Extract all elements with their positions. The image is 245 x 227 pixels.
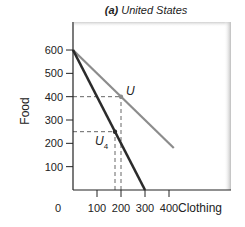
frame-top-shade: [74, 22, 230, 27]
chart: (a) United States UU4 100200300400500600…: [0, 0, 245, 227]
y-tick-label: 200: [45, 137, 63, 149]
plot-area: UU4: [73, 50, 174, 190]
point-label: U4: [95, 134, 109, 151]
x-tick-label: 200: [112, 202, 130, 214]
y-ticks: 100200300400500600: [45, 44, 73, 173]
x-tick-label: 400: [160, 202, 178, 214]
x-tick-label: 300: [136, 202, 154, 214]
frame-right-shade: [224, 22, 231, 190]
point-marker: [113, 129, 117, 133]
y-tick-label: 500: [45, 67, 63, 79]
x-axis-label: Clothing: [178, 201, 222, 215]
point-marker: [119, 94, 123, 98]
y-axis-label: Food: [18, 97, 32, 124]
y-tick-label: 300: [45, 114, 63, 126]
origin-label: 0: [55, 202, 61, 214]
chart-title: (a) United States: [105, 4, 188, 16]
series-line: [73, 50, 174, 148]
y-tick-label: 100: [45, 161, 63, 173]
y-tick-label: 600: [45, 44, 63, 56]
y-tick-label: 400: [45, 91, 63, 103]
x-tick-label: 100: [88, 202, 106, 214]
x-ticks: 100200300400: [88, 190, 178, 214]
point-label: U: [126, 84, 135, 98]
series-line: [73, 50, 145, 190]
